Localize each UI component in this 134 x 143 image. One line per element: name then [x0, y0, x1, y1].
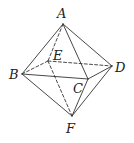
vertex-label-d: D	[114, 60, 126, 75]
vertex-label-f: F	[65, 121, 76, 136]
octahedron-diagram: A B C D E F	[0, 0, 134, 143]
edge-ac	[63, 24, 88, 79]
edge-ef	[48, 61, 72, 116]
vertex-label-a: A	[56, 6, 66, 21]
edge-be	[22, 61, 48, 74]
vertex-label-c: C	[73, 81, 83, 96]
edge-ad	[63, 24, 112, 66]
vertex-label-b: B	[8, 67, 19, 82]
vertex-label-e: E	[52, 48, 63, 63]
edges-group	[22, 24, 112, 116]
edge-bf	[22, 74, 72, 116]
edge-cd	[88, 66, 112, 79]
